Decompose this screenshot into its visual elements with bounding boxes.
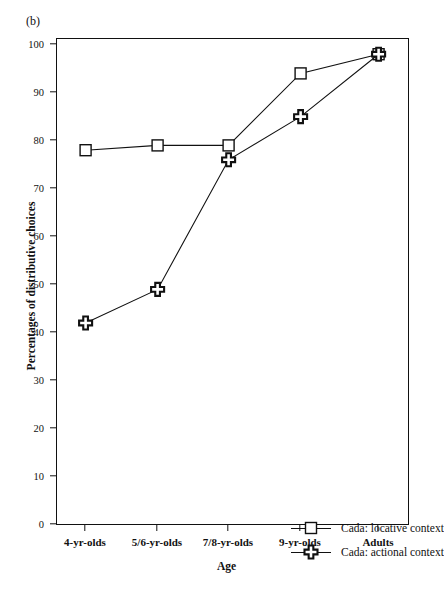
legend-marker-sample: [289, 518, 333, 538]
plot-area: Cada: locative contextCada: actional con…: [56, 38, 409, 525]
filled-cross-marker: [295, 111, 308, 124]
series-line: [86, 55, 379, 151]
x-tick-label: 9-yr-olds: [279, 536, 321, 548]
y-tick-label: 20: [34, 423, 45, 434]
y-axis-title: Percentages of distributive choices: [25, 161, 37, 411]
x-axis-title: Age: [0, 560, 421, 572]
y-tick-label: 100: [28, 39, 44, 50]
series-actional: [80, 48, 386, 330]
y-tick-label: 80: [34, 135, 45, 146]
series-locative: [81, 49, 385, 156]
open-square-marker: [153, 140, 164, 151]
x-tick-mark: [299, 525, 300, 531]
x-tick-label: 5/6-yr-olds: [132, 536, 182, 548]
x-tick-mark: [156, 525, 157, 531]
open-square-marker: [224, 140, 235, 151]
x-tick-label: Adults: [362, 536, 393, 548]
x-axis-title-text: Age: [217, 560, 236, 572]
y-tick-label: 90: [34, 87, 45, 98]
y-tick-label: 0: [39, 519, 44, 530]
filled-cross-marker: [152, 283, 165, 296]
chart-series-canvas: [55, 37, 408, 524]
filled-cross-marker: [80, 317, 93, 330]
series-line: [86, 55, 379, 324]
x-tick-label: 4-yr-olds: [64, 536, 106, 548]
x-tick-label: 7/8-yr-olds: [203, 536, 253, 548]
x-tick-mark: [377, 525, 378, 531]
open-square-marker: [296, 68, 307, 79]
x-tick-mark: [84, 525, 85, 531]
open-square-marker: [289, 518, 333, 538]
x-tick-mark: [227, 525, 228, 531]
y-tick-label: 10: [34, 471, 45, 482]
legend-label: Cada: locative context: [333, 522, 444, 534]
filled-cross-marker: [223, 154, 236, 167]
open-square-marker: [81, 145, 92, 156]
